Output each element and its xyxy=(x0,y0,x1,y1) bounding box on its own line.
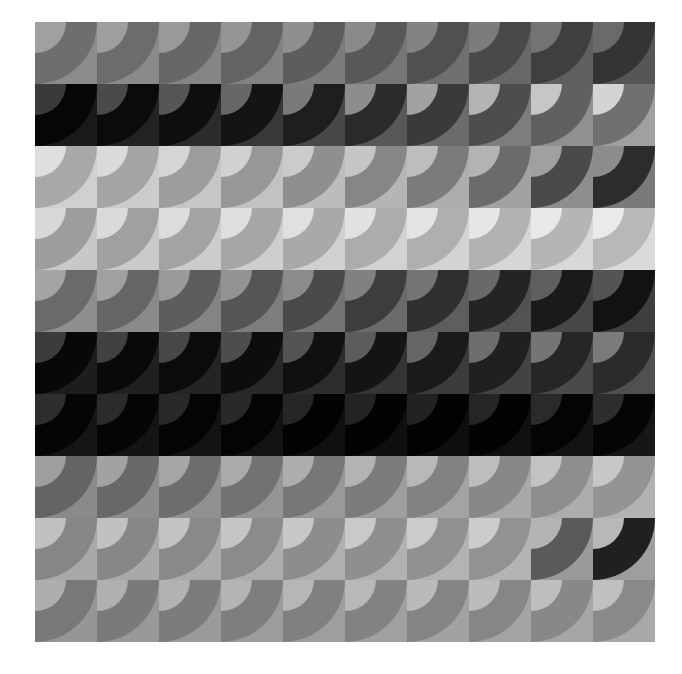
grid-cell xyxy=(97,84,159,146)
grid-cell xyxy=(283,84,345,146)
grid-cell xyxy=(221,394,283,456)
grid-cell xyxy=(407,208,469,270)
grid-cell xyxy=(283,270,345,332)
grid-cell xyxy=(159,456,221,518)
grid-cell xyxy=(593,208,655,270)
grid-cell xyxy=(345,84,407,146)
grid-cell xyxy=(407,270,469,332)
grid-row xyxy=(35,270,655,332)
grid-cell xyxy=(345,208,407,270)
grid-cell xyxy=(221,456,283,518)
grid-cell xyxy=(35,208,97,270)
grid-cell xyxy=(531,332,593,394)
grid-cell xyxy=(159,394,221,456)
grid-cell xyxy=(221,84,283,146)
artboard xyxy=(0,0,682,674)
grid-cell xyxy=(159,270,221,332)
grid-cell xyxy=(159,332,221,394)
grid-cell xyxy=(469,456,531,518)
grid-cell xyxy=(593,332,655,394)
grid-cell xyxy=(531,580,593,642)
grid-cell xyxy=(469,332,531,394)
grid-cell xyxy=(593,518,655,580)
grid-cell xyxy=(221,518,283,580)
grid-row xyxy=(35,580,655,642)
grid-cell xyxy=(469,22,531,84)
grid-cell xyxy=(593,394,655,456)
grid-cell xyxy=(345,518,407,580)
grid-row xyxy=(35,332,655,394)
grid-cell xyxy=(531,456,593,518)
grid-cell xyxy=(345,22,407,84)
grid-cell xyxy=(407,332,469,394)
grid-cell xyxy=(35,518,97,580)
grid-cell xyxy=(531,84,593,146)
grid-cell xyxy=(531,270,593,332)
grid-cell xyxy=(283,146,345,208)
grid-cell xyxy=(469,208,531,270)
grid-cell xyxy=(35,394,97,456)
grid-cell xyxy=(531,22,593,84)
grid-cell xyxy=(469,146,531,208)
grid-cell xyxy=(531,394,593,456)
grid-cell xyxy=(283,456,345,518)
grid-cell xyxy=(97,332,159,394)
grid-row xyxy=(35,518,655,580)
grid-cell xyxy=(221,208,283,270)
grid-cell xyxy=(159,580,221,642)
grid-cell xyxy=(283,208,345,270)
grid-cell xyxy=(593,84,655,146)
grid-cell xyxy=(531,146,593,208)
grid-cell xyxy=(531,518,593,580)
grid-cell xyxy=(593,456,655,518)
grid-cell xyxy=(469,580,531,642)
grid-cell xyxy=(407,580,469,642)
grid-cell xyxy=(469,394,531,456)
grid-cell xyxy=(407,146,469,208)
grid-cell xyxy=(345,332,407,394)
grid-cell xyxy=(159,146,221,208)
grid-cell xyxy=(97,146,159,208)
grid-cell xyxy=(35,22,97,84)
grid-cell xyxy=(221,580,283,642)
grid-cell xyxy=(345,394,407,456)
grid-cell xyxy=(97,456,159,518)
grid-row xyxy=(35,146,655,208)
grid-cell xyxy=(407,456,469,518)
grid-cell xyxy=(407,84,469,146)
grid-cell xyxy=(345,456,407,518)
grid-cell xyxy=(35,146,97,208)
grid-cell xyxy=(159,22,221,84)
grid-cell xyxy=(283,22,345,84)
grid-cell xyxy=(283,580,345,642)
grid-cell xyxy=(221,22,283,84)
grid-cell xyxy=(35,456,97,518)
grid-cell xyxy=(469,518,531,580)
grid-cell xyxy=(97,208,159,270)
grid-cell xyxy=(159,84,221,146)
grid-cell xyxy=(593,22,655,84)
grid-cell xyxy=(97,580,159,642)
grid-cell xyxy=(593,270,655,332)
grid-cell xyxy=(407,22,469,84)
grid-cell xyxy=(283,332,345,394)
grid-cell xyxy=(159,518,221,580)
grid-cell xyxy=(97,518,159,580)
grid-cell xyxy=(407,518,469,580)
grid-cell xyxy=(35,332,97,394)
grid-cell xyxy=(221,270,283,332)
grid-cell xyxy=(345,270,407,332)
grid-cell xyxy=(593,580,655,642)
grid-row xyxy=(35,208,655,270)
grid-cell xyxy=(97,270,159,332)
grid-cell xyxy=(283,394,345,456)
grid-cell xyxy=(221,332,283,394)
grid-cell xyxy=(283,518,345,580)
cell-layer xyxy=(35,22,655,642)
grid-cell xyxy=(469,270,531,332)
grid-cell xyxy=(531,208,593,270)
grid-cell xyxy=(35,580,97,642)
grid-cell xyxy=(35,84,97,146)
grid-cell xyxy=(345,580,407,642)
scallop-grid xyxy=(0,0,682,674)
